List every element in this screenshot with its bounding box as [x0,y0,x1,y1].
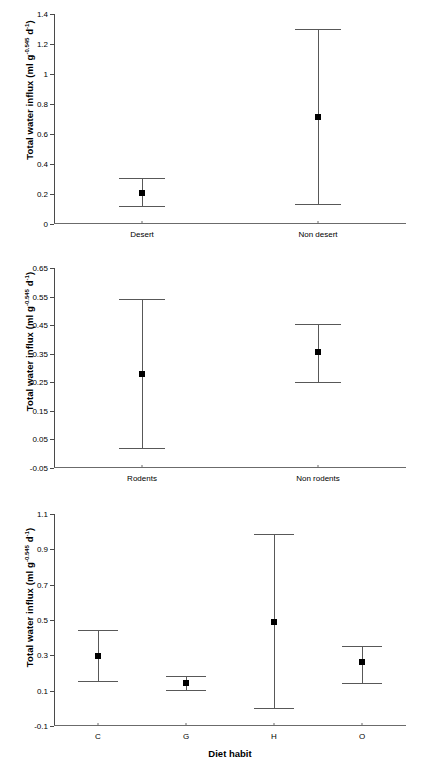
x-category-label: G [183,732,189,741]
plot-area-panel-3: -0.10.10.30.50.70.91.1 CGHO [54,514,406,726]
data-point-marker [315,349,321,355]
y-tick-mark [50,224,54,225]
x-tick-mark [274,723,275,726]
y-axis-title-close-3: ) [24,528,35,531]
y-axis-title-panel-1: Total water influx (ml g-0.545 d-1) [20,0,34,200]
data-point-marker [139,190,145,196]
x-category-label: Rodents [127,474,157,483]
y-tick-label: 0.3 [37,651,48,660]
data-point-marker [139,371,145,377]
y-axis-title-panel-3: Total water influx (ml g-0.545 d-1) [20,490,34,705]
x-category-label: H [271,732,277,741]
error-bar-cap-lower [166,690,206,691]
y-tick-label: 0.65 [32,264,48,273]
y-axis-title-tail-1: d [24,29,35,38]
error-bar-cap-lower [254,708,294,709]
y-axis-exponent-1: -0.545 [24,38,30,55]
y-tick-label: 0.05 [32,435,48,444]
error-bar-cap-lower [342,683,382,684]
y-axis-tail-exponent-1: -1 [24,24,30,29]
y-axis-title-text-3: Total water influx (ml g [24,562,35,667]
y-tick-label: 0.8 [37,100,48,109]
y-tick-mark [50,468,54,469]
y-tick-label: 0.1 [37,686,48,695]
error-bar-cap-upper [295,29,341,30]
x-tick-mark [142,221,143,224]
y-tick-label: 0.25 [32,378,48,387]
y-tick-label: 0.5 [37,616,48,625]
data-point-marker [271,619,277,625]
x-tick-mark [142,465,143,468]
y-axis-tail-exponent-2: -1 [24,275,30,280]
y-tick-label: 1 [44,70,48,79]
data-series-2 [54,268,406,468]
x-category-label: C [95,732,101,741]
x-tick-mark [318,221,319,224]
x-tick-mark [318,465,319,468]
x-category-label: Desert [130,230,154,239]
error-bar-cap-upper [78,630,118,631]
error-bar-cap-upper [254,534,294,535]
error-bar-cap-lower [295,204,341,205]
error-bar-cap-lower [295,382,341,383]
y-axis-tail-exponent-3: -1 [24,531,30,536]
error-bar-cap-upper [295,324,341,325]
y-axis-exponent-3: -0.545 [24,545,30,562]
y-tick-label: -0.1 [34,722,48,731]
y-tick-label: 0.7 [37,580,48,589]
data-point-marker [183,680,189,686]
y-tick-label: 0.55 [32,292,48,301]
x-tick-mark [186,723,187,726]
panel-desert-nondesert: Total water influx (ml g-0.545 d-1) 00.2… [0,0,424,254]
panel-diet-habit: Total water influx (ml g-0.545 d-1) -0.1… [0,500,424,762]
y-axis-title-tail-2: d [24,280,35,289]
y-tick-label: 0.15 [32,406,48,415]
x-tick-mark [98,723,99,726]
y-tick-label: -0.05 [30,464,48,473]
x-category-label: Non desert [298,230,337,239]
plot-area-panel-1: 00.20.40.60.811.21.4 DesertNon desert [54,14,406,224]
error-bar-cap-upper [166,676,206,677]
y-axis-title-tail-3: d [24,536,35,545]
y-tick-label: 1.1 [37,510,48,519]
y-tick-label: 1.4 [37,10,48,19]
error-bar-cap-lower [78,681,118,682]
data-point-marker [95,653,101,659]
y-tick-label: 0.45 [32,321,48,330]
y-tick-label: 0.9 [37,545,48,554]
figure-container: Total water influx (ml g-0.545 d-1) 00.2… [0,0,424,762]
data-point-marker [315,114,321,120]
y-tick-label: 0.2 [37,190,48,199]
plot-area-panel-2: -0.050.050.150.250.350.450.550.65 Rodent… [54,268,406,468]
y-tick-label: 1.2 [37,40,48,49]
error-bar-cap-upper [119,178,165,179]
y-tick-mark [50,726,54,727]
x-tick-mark [362,723,363,726]
y-tick-label: 0 [44,220,48,229]
error-bar-cap-upper [119,299,165,300]
error-bar-cap-upper [342,646,382,647]
data-point-marker [359,659,365,665]
y-tick-label: 0.6 [37,130,48,139]
error-bar-cap-lower [119,448,165,449]
y-axis-title-close-1: ) [24,20,35,23]
x-category-label: O [359,732,365,741]
y-tick-label: 0.35 [32,349,48,358]
error-bar-cap-lower [119,206,165,207]
y-axis-exponent-2: -0.545 [24,289,30,306]
data-series-3 [54,514,406,726]
x-axis-title: Diet habit [54,748,406,759]
data-series-1 [54,14,406,224]
y-tick-label: 0.4 [37,160,48,169]
x-category-label: Non rodents [296,474,340,483]
panel-rodents-nonrodents: Total water influx (ml g-0.545 d-1) -0.0… [0,254,424,500]
y-axis-title-text-1: Total water influx (ml g [24,55,35,160]
